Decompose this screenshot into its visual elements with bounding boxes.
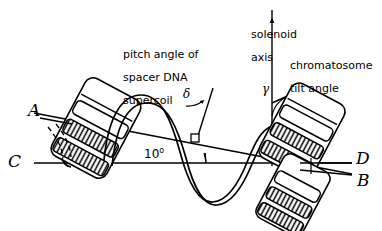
- solenoid-axis-line2: axis: [251, 51, 273, 64]
- right-angle-marker: [191, 134, 199, 142]
- axis-label-a: A: [28, 100, 40, 120]
- pitch-angle-line1: pitch angle of: [123, 48, 199, 61]
- solenoid-axis-line1: solenoid: [251, 28, 297, 41]
- axis-label-d: D: [356, 148, 370, 168]
- chromatosome-tilt-label: chromatosome tilt angle: [276, 48, 372, 106]
- chromatosome-tilt-line1: chromatosome: [290, 59, 372, 72]
- pitch-angle-line3: supercoil: [123, 94, 173, 107]
- tilt-angle-symbol-gamma: γ: [262, 82, 269, 96]
- figure-canvas: pitch angle of spacer DNA supercoil sole…: [0, 0, 382, 231]
- pitch-angle-symbol-delta: δ: [183, 87, 190, 101]
- pitch-angle-label: pitch angle of spacer DNA supercoil: [109, 37, 199, 118]
- angle-marker-10deg: [204, 153, 206, 163]
- axis-label-b: B: [357, 170, 370, 190]
- pitch-angle-line2: spacer DNA: [123, 71, 188, 84]
- axis-label-c: C: [8, 151, 21, 171]
- degree-symbol: o: [159, 146, 164, 155]
- angle-10-value: 10: [144, 147, 159, 161]
- chromatosome-tilt-line2: tilt angle: [290, 82, 339, 95]
- angle-10-degrees-label: 10o: [144, 146, 164, 161]
